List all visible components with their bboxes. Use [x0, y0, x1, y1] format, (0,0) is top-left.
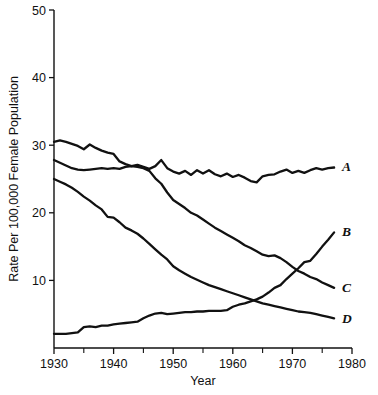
x-tick-label: 1970	[278, 357, 306, 371]
series-line-c	[54, 160, 334, 288]
data-series-lines	[54, 140, 334, 333]
series-line-a	[54, 140, 334, 182]
x-tick-label: 1940	[100, 357, 128, 371]
y-tick-label: 50	[32, 4, 46, 18]
line-chart-canvas: 1020304050 193019401950196019701980 ABCD…	[0, 0, 378, 395]
y-tick-label: 20	[32, 206, 46, 220]
y-axis-ticks	[49, 10, 54, 280]
x-axis-tick-labels: 193019401950196019701980	[40, 357, 366, 371]
y-tick-label: 30	[32, 139, 46, 153]
x-tick-label: 1960	[219, 357, 247, 371]
series-label-b: B	[341, 224, 351, 239]
y-tick-label: 10	[32, 274, 46, 288]
series-label-c: C	[342, 280, 352, 295]
chart-figure: 1020304050 193019401950196019701980 ABCD…	[0, 0, 378, 395]
x-tick-label: 1950	[159, 357, 187, 371]
series-line-b	[54, 232, 334, 333]
y-tick-label: 40	[32, 71, 46, 85]
series-line-d	[54, 179, 334, 318]
axes-group	[54, 10, 352, 348]
x-axis-title: Year	[190, 374, 215, 388]
series-label-d: D	[341, 311, 352, 326]
series-end-labels: ABCD	[341, 159, 352, 326]
x-axis-minor-ticks	[84, 348, 322, 353]
x-tick-label: 1980	[338, 357, 366, 371]
x-tick-label: 1930	[40, 357, 68, 371]
y-axis-title: Rate Per 100,000 Female Population	[7, 76, 21, 282]
series-label-a: A	[341, 159, 351, 174]
y-axis-tick-labels: 1020304050	[32, 4, 46, 288]
